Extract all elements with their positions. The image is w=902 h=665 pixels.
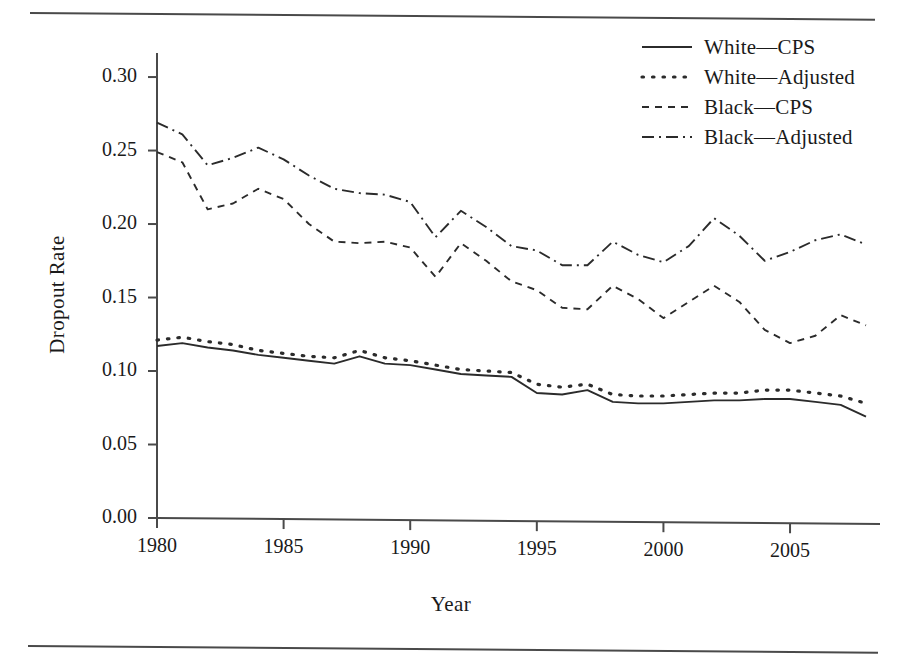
- legend-line-swatch: [640, 130, 694, 144]
- chart-legend: White—CPSWhite—AdjustedBlack—CPSBlack—Ad…: [640, 32, 855, 152]
- legend-item[interactable]: Black—Adjusted: [640, 122, 855, 152]
- legend-item-label: White—CPS: [704, 35, 815, 60]
- legend-item[interactable]: White—Adjusted: [640, 62, 855, 92]
- y-tick-label: 0.15: [67, 285, 137, 308]
- x-tick-label: 1985: [244, 535, 324, 558]
- series-line-1: [157, 337, 866, 403]
- x-tick-label: 1990: [370, 536, 450, 559]
- x-axis-line: [157, 518, 880, 524]
- legend-item[interactable]: Black—CPS: [640, 92, 855, 122]
- legend-item[interactable]: White—CPS: [640, 32, 855, 62]
- legend-item-label: Black—Adjusted: [704, 125, 853, 150]
- y-axis-title: Dropout Rate: [45, 200, 70, 390]
- y-tick-label: 0.05: [67, 432, 137, 455]
- x-axis-title: Year: [0, 592, 902, 617]
- legend-line-swatch: [640, 70, 694, 84]
- y-tick-label: 0.20: [67, 211, 137, 234]
- x-tick-label: 2005: [750, 539, 830, 562]
- x-tick-label: 1980: [117, 534, 197, 557]
- legend-item-label: Black—CPS: [704, 95, 813, 120]
- y-tick-label: 0.25: [67, 138, 137, 161]
- legend-line-swatch: [640, 40, 694, 54]
- series-line-0: [157, 343, 866, 416]
- y-tick-label: 0.10: [67, 358, 137, 381]
- x-tick-label: 2000: [623, 538, 703, 561]
- legend-item-label: White—Adjusted: [704, 65, 855, 90]
- y-tick-label: 0.00: [67, 505, 137, 528]
- y-tick-label: 0.30: [67, 64, 137, 87]
- x-tick-label: 1995: [497, 537, 577, 560]
- legend-line-swatch: [640, 100, 694, 114]
- figure-container: Dropout Rate Year 0.000.050.100.150.200.…: [0, 0, 902, 665]
- series-line-2: [157, 152, 866, 343]
